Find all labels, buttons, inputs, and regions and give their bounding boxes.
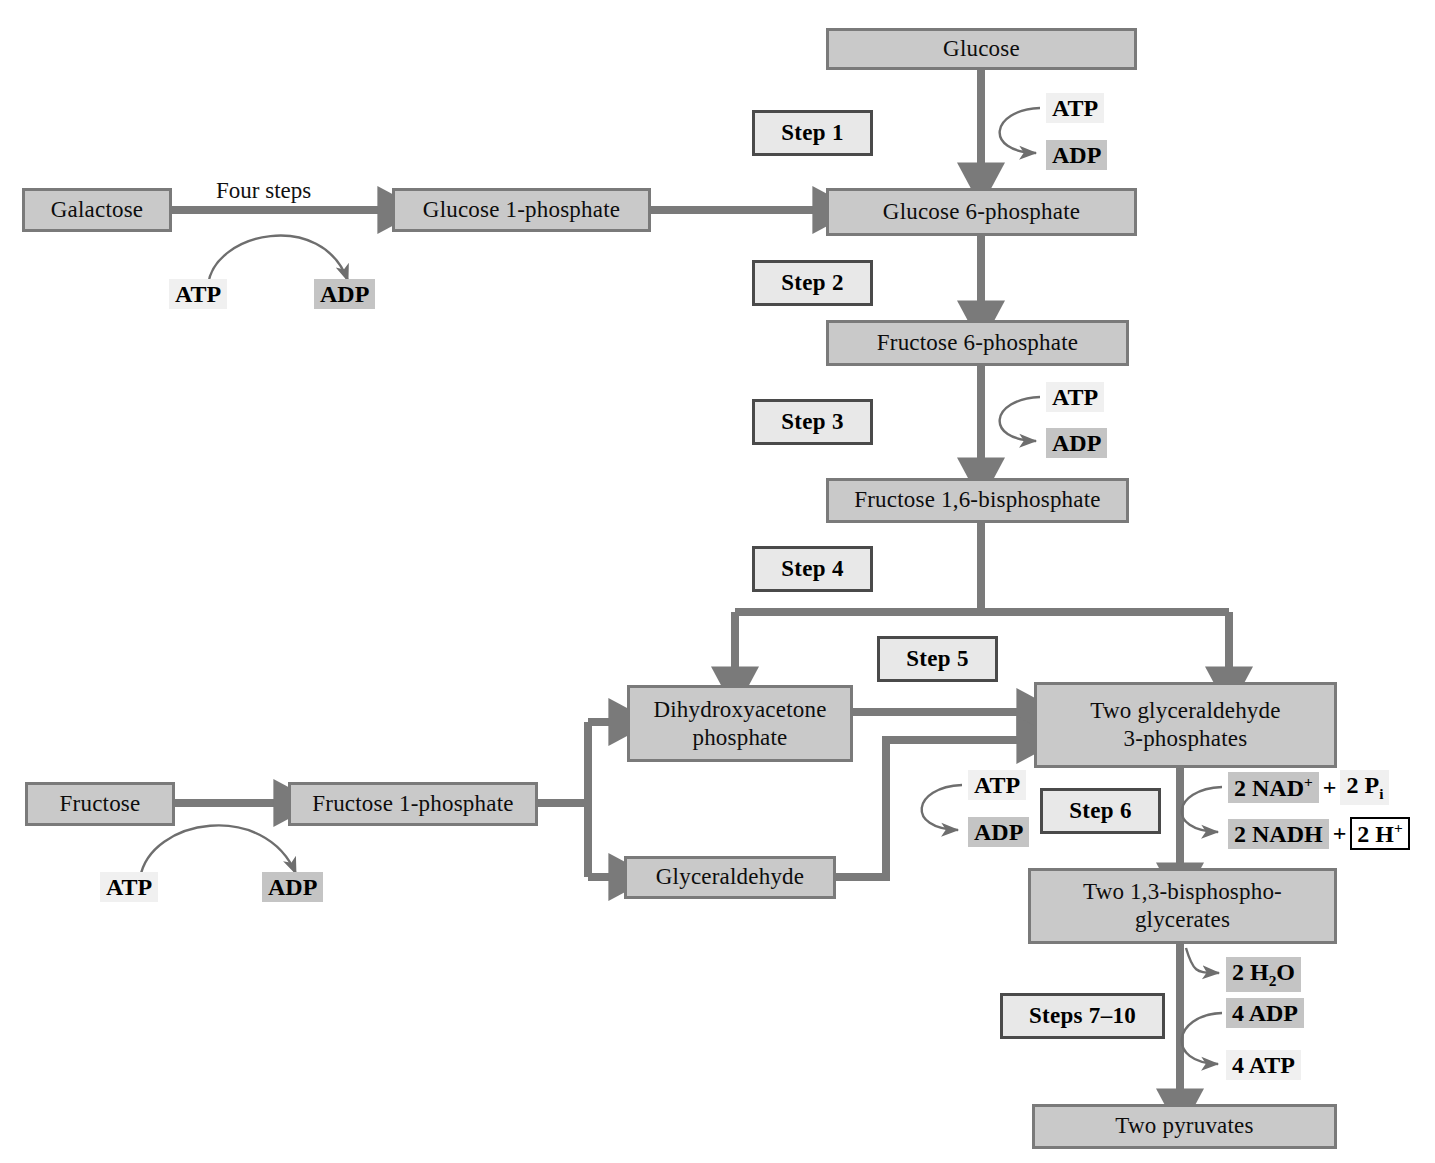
box-glucose-6-phosphate[interactable]: Glucose 6-phosphate [826, 188, 1137, 236]
pi-label: 2 P [1346, 772, 1379, 798]
h-label: 2 H [1357, 821, 1394, 847]
cofactor-group-nadh-h: 2 NADH + 2 H+ [1228, 817, 1410, 850]
box-fructose-1-phosphate[interactable]: Fructose 1-phosphate [288, 782, 538, 826]
cofactor-arc-glyceraldehyde [922, 785, 962, 830]
step-box-5[interactable]: Step 5 [877, 636, 998, 682]
cofactor-atp-4: 4 ATP [1226, 1050, 1301, 1080]
label-four-steps: Four steps [216, 178, 311, 204]
box-dihydroxyacetone-phosphate[interactable]: Dihydroxyacetone phosphate [627, 685, 853, 762]
step-box-4[interactable]: Step 4 [752, 546, 873, 592]
cofactor-proton: 2 H+ [1350, 817, 1409, 850]
cofactor-atp-glyceraldehyde: ATP [968, 770, 1026, 800]
cofactor-arc-step1 [1000, 108, 1040, 153]
cofactor-atp-step1: ATP [1046, 93, 1104, 123]
arrow-f1p-split [538, 722, 618, 877]
step-box-7-10[interactable]: Steps 7–10 [1000, 993, 1165, 1039]
step-box-2[interactable]: Step 2 [752, 260, 873, 306]
box-two-1-3-bisphosphoglycerates[interactable]: Two 1,3-bisphospho- glycerates [1028, 868, 1337, 944]
box-glyceraldehyde[interactable]: Glyceraldehyde [624, 856, 836, 899]
box-fructose-1-6-bisphosphate[interactable]: Fructose 1,6-bisphosphate [826, 478, 1129, 523]
nad-label: 2 NAD [1234, 775, 1304, 801]
water-oxygen: O [1276, 959, 1295, 985]
bpg-line-1: Two 1,3-bisphospho- [1083, 878, 1282, 906]
bpg-line-2: glycerates [1135, 906, 1230, 934]
box-galactose[interactable]: Galactose [22, 188, 172, 232]
cofactor-nadh: 2 NADH [1228, 819, 1329, 849]
box-glucose-1-phosphate[interactable]: Glucose 1-phosphate [392, 188, 651, 232]
connector-overlay [0, 0, 1435, 1163]
step-box-3[interactable]: Step 3 [752, 399, 873, 445]
box-fructose-6-phosphate[interactable]: Fructose 6-phosphate [826, 320, 1129, 366]
cofactor-adp-glyceraldehyde: ADP [968, 817, 1029, 847]
box-two-pyruvates[interactable]: Two pyruvates [1032, 1104, 1337, 1149]
cofactor-water: 2 H2O [1226, 957, 1301, 992]
cofactor-arc-step3 [1000, 397, 1040, 441]
plus-sign-nadh: + [1329, 820, 1351, 847]
step-box-1[interactable]: Step 1 [752, 110, 873, 156]
cofactor-adp-galactose: ADP [314, 279, 375, 309]
box-fructose[interactable]: Fructose [25, 782, 175, 826]
cofactor-atp-step3: ATP [1046, 382, 1104, 412]
box-glucose[interactable]: Glucose [826, 28, 1137, 70]
nad-charge: + [1304, 773, 1313, 790]
cofactor-atp-galactose: ATP [169, 279, 227, 309]
pi-subscript: i [1379, 785, 1383, 802]
cofactor-arc-fructose [140, 825, 296, 878]
g3p-line-1: Two glyceraldehyde [1090, 697, 1280, 725]
plus-sign-nad: + [1319, 774, 1341, 801]
glycolysis-diagram: Glucose Galactose Glucose 1-phosphate Gl… [0, 0, 1435, 1163]
cofactor-adp-fructose: ADP [262, 872, 323, 902]
cofactor-arc-galactose [208, 236, 348, 285]
h-charge: + [1394, 819, 1403, 836]
water-label: 2 H [1232, 959, 1269, 985]
step-box-6[interactable]: Step 6 [1040, 788, 1161, 834]
cofactor-adp-step1: ADP [1046, 140, 1107, 170]
cofactor-arc-water [1186, 948, 1219, 973]
cofactor-nad-plus: 2 NAD+ [1228, 772, 1319, 803]
dhap-line-1: Dihydroxyacetone [653, 696, 826, 724]
g3p-line-2: 3-phosphates [1124, 725, 1248, 753]
cofactor-arc-step6 [1182, 787, 1222, 832]
cofactor-arc-atp [1182, 1013, 1222, 1064]
cofactor-atp-fructose: ATP [100, 872, 158, 902]
cofactor-phosphate: 2 Pi [1340, 770, 1389, 805]
arrow-glyceraldehyde-to-g3p [836, 740, 1026, 877]
cofactor-adp-step3: ADP [1046, 428, 1107, 458]
box-two-glyceraldehyde-3-phosphates[interactable]: Two glyceraldehyde 3-phosphates [1034, 682, 1337, 768]
cofactor-group-nad-pi: 2 NAD+ + 2 Pi [1228, 770, 1389, 805]
dhap-line-2: phosphate [692, 724, 787, 752]
cofactor-adp-4: 4 ADP [1226, 998, 1304, 1028]
